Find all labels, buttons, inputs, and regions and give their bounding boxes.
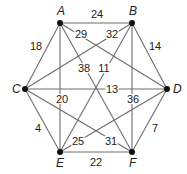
node-E	[57, 149, 63, 155]
edge-C-E	[25, 89, 60, 152]
edge-B-D	[132, 23, 167, 89]
edge-weight-A-E: 20	[56, 93, 68, 105]
edge-weight-A-F: 38	[78, 62, 90, 74]
node-label-E: E	[56, 156, 65, 170]
edge-A-C	[25, 23, 60, 89]
edge-weight-B-D: 14	[149, 40, 161, 52]
node-label-C: C	[12, 82, 21, 96]
edge-weight-A-C: 18	[30, 40, 42, 52]
node-B	[129, 20, 135, 26]
edge-weight-B-F: 36	[127, 93, 139, 105]
edge-weight-A-D: 29	[75, 28, 87, 40]
edge-weight-C-F: 31	[105, 135, 117, 147]
node-label-F: F	[129, 156, 137, 170]
node-D	[164, 86, 170, 92]
edge-weight-B-E: 11	[98, 62, 109, 74]
edge-weight-B-C: 32	[106, 28, 118, 40]
edge-weight-C-E: 4	[35, 122, 41, 134]
node-label-D: D	[173, 82, 182, 96]
nodes-layer: ABCDEF	[12, 4, 182, 170]
node-A	[57, 20, 63, 26]
edge-weight-D-E: 25	[72, 135, 84, 147]
edge-weight-D-F: 7	[152, 122, 158, 134]
graph-diagram: 2418292038321411361343125722 ABCDEF	[0, 0, 187, 174]
node-label-A: A	[56, 4, 65, 18]
edge-weight-A-B: 24	[91, 8, 103, 20]
edge-weight-C-D: 13	[106, 83, 118, 95]
node-label-B: B	[129, 4, 137, 18]
node-C	[22, 86, 28, 92]
node-F	[129, 149, 135, 155]
edges-layer	[25, 23, 167, 152]
edge-weight-E-F: 22	[90, 156, 102, 168]
